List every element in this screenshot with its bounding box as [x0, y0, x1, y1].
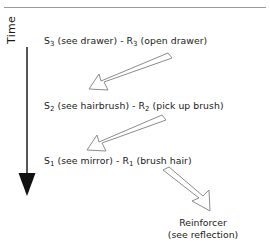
behavior-chain-diagram: Time S3 (see drawer) - R3 (open drawer) …	[0, 0, 270, 245]
time-axis-label: Time	[5, 6, 18, 54]
stimulus-text-1: (see mirror)	[54, 155, 113, 166]
stimulus-index-2: 2	[50, 105, 55, 113]
chain-separator-3: -	[117, 35, 126, 46]
stimulus-index-3: 3	[50, 40, 55, 48]
reinforcer-title: Reinforcer	[150, 217, 256, 229]
stimulus-index-1: 1	[50, 160, 55, 168]
response-text-3: (open drawer)	[138, 35, 208, 46]
response-index-3: 3	[133, 40, 138, 48]
response-text-1: (brush hair)	[133, 155, 191, 166]
stimulus-text-3: (see drawer)	[54, 35, 117, 46]
chain-separator-1: -	[113, 155, 122, 166]
response-text-2: (pick up brush)	[150, 100, 224, 111]
chain-link-1: S1 (see mirror) - R1 (brush hair)	[44, 155, 192, 166]
reinforcer-subtitle: (see reflection)	[150, 229, 256, 241]
stimulus-text-2: (see hairbrush)	[54, 100, 129, 111]
chain-link-3: S3 (see drawer) - R3 (open drawer)	[44, 35, 207, 46]
response-index-2: 2	[145, 105, 150, 113]
response-index-1: 1	[129, 160, 134, 168]
response-symbol-1: R	[122, 155, 129, 166]
chain-separator-2: -	[129, 100, 138, 111]
chain-link-2: S2 (see hairbrush) - R2 (pick up brush)	[44, 100, 224, 111]
top-divider-rule	[4, 7, 266, 8]
reinforcer-label: Reinforcer (see reflection)	[150, 217, 256, 240]
